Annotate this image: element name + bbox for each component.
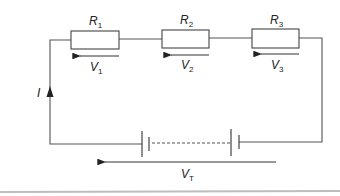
- voltage-v1-label: V1: [90, 60, 103, 76]
- voltage-v3-label: V3: [271, 58, 284, 74]
- total-voltage: VT: [105, 162, 276, 183]
- resistor-r3: R3 V3: [252, 13, 299, 74]
- bottom-separator: [0, 191, 340, 192]
- resistor-r2: R2 V2: [162, 13, 209, 74]
- resistor-r2-body: [162, 30, 209, 48]
- resistor-r2-label: R2: [180, 13, 194, 29]
- voltage-v2-label: V2: [181, 58, 194, 74]
- current-arrow-icon: [47, 86, 54, 97]
- battery: [142, 129, 239, 157]
- resistor-r3-label: R3: [270, 13, 284, 29]
- current-indicator: I: [37, 86, 54, 100]
- series-circuit-diagram: I R1 V1 R2 V2 R3 V3 VT: [0, 0, 340, 196]
- resistor-r1-label: R1: [89, 14, 103, 30]
- current-label: I: [37, 86, 41, 100]
- resistor-r1: R1 V1: [71, 14, 119, 76]
- resistor-r3-body: [252, 29, 299, 48]
- total-voltage-label: VT: [181, 167, 194, 183]
- resistor-r1-body: [71, 31, 119, 49]
